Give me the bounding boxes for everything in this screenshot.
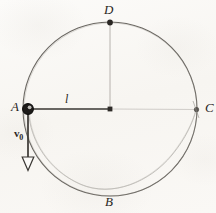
trajectory-arc-echo — [30, 110, 197, 189]
velocity-label-subscript: 0 — [19, 133, 23, 142]
diagram-canvas — [0, 0, 216, 213]
point-b-label: B — [105, 195, 113, 208]
trajectory-arc — [29, 110, 197, 189]
point-d-label: D — [104, 3, 113, 16]
point-d-marker — [107, 20, 113, 26]
point-c-label: C — [205, 101, 214, 114]
physics-figure: D A C B l v0 — [0, 0, 216, 213]
velocity-label: v0 — [14, 128, 23, 142]
velocity-arrow-head — [22, 157, 34, 171]
ball-at-a-highlight — [28, 105, 32, 109]
radius-line-center-to-c — [110, 109, 197, 110]
point-a-label: A — [11, 100, 19, 113]
center-point-marker — [108, 107, 113, 112]
radius-length-label: l — [65, 93, 68, 105]
